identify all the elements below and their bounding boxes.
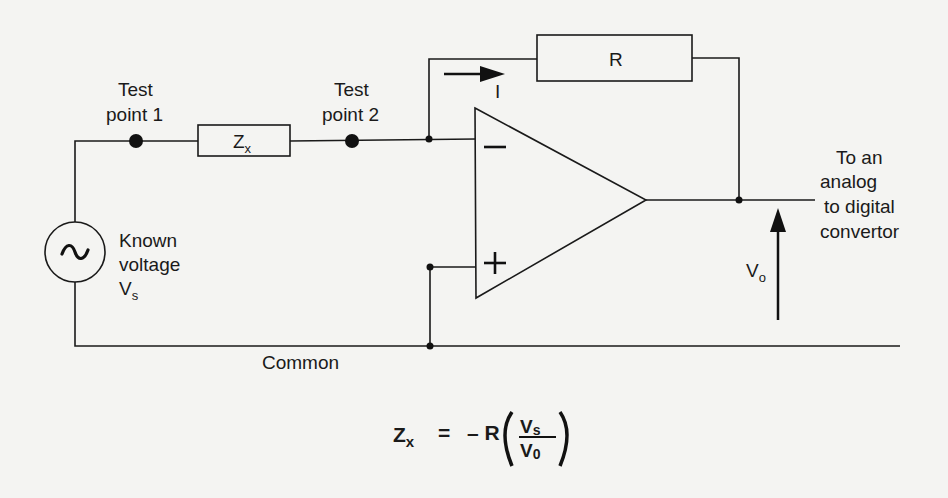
common-label: Common [262,352,339,373]
test-point-1-label-line1: Test [118,79,154,100]
source-label-line2: voltage [119,254,180,275]
current-arrow: I [444,66,505,102]
circuit-diagram: Zx R I Vo Test point 1 Test [0,0,948,498]
output-label-line3: to digital [824,196,895,217]
formula-equals: = [438,421,450,444]
vo-label: Vo [746,260,766,285]
wire-zx-to-inverting [290,139,476,141]
impedance-zx: Zx [198,125,290,156]
formula-lhs: Zx [393,423,415,450]
output-label-line2: analog [820,171,877,192]
op-amp [475,108,646,298]
source-label-line3: Vs [119,278,139,303]
output-label-line1: To an [836,147,882,168]
formula: Zx = – R Vs V0 [393,412,567,466]
test-point-2[interactable] [345,134,359,148]
r-label: R [609,49,623,70]
source-label-line1: Known [119,230,177,251]
wire-source-top [75,141,198,222]
junction-inverting [426,136,433,143]
wire-feedback-right [692,58,739,200]
formula-open-paren [505,412,512,466]
op-amp-triangle [475,108,646,298]
formula-close-paren [560,412,567,466]
feedback-resistor: R [537,35,692,81]
arrow-right-icon [480,66,505,82]
test-point-2-label-line1: Test [334,79,370,100]
current-label: I [495,81,500,102]
junction-noninverting [427,264,434,271]
test-point-1-label-line2: point 1 [106,104,163,125]
wire-noninverting [430,267,476,346]
vo-arrow: Vo [746,208,786,320]
junction-output [736,197,743,204]
output-label-line4: convertor [820,221,900,242]
formula-minus-r: – R [467,421,500,444]
formula-numerator: Vs [520,416,541,438]
test-point-1[interactable] [129,134,143,148]
nodes [129,134,743,350]
ac-voltage-source [45,222,105,282]
junction-common [427,343,434,350]
test-point-2-label-line2: point 2 [322,104,379,125]
formula-denominator: V0 [520,440,541,462]
arrow-up-icon [770,208,786,232]
